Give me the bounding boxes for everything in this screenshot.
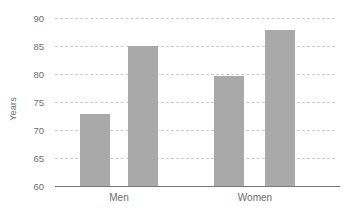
- bar-men-2: [128, 46, 158, 186]
- bars-layer: [0, 0, 345, 186]
- bar-chart: Years 90 85 80 75 70 65 60 Men Women: [0, 0, 345, 217]
- x-category-label-men: Men: [97, 192, 141, 203]
- x-category-label-women: Women: [224, 192, 286, 203]
- x-axis-line: [55, 186, 340, 187]
- bar-women-2: [265, 30, 295, 186]
- bar-women-1: [214, 76, 244, 186]
- bar-men-1: [80, 114, 110, 186]
